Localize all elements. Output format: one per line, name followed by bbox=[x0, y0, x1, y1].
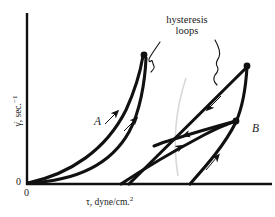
y-axis-label-text: γ̇, sec. bbox=[13, 103, 23, 126]
curve-loop-a-descending bbox=[28, 58, 146, 183]
origin-label-x-axis: 0 bbox=[24, 188, 29, 199]
figure-canvas bbox=[0, 0, 275, 217]
origin-label-y-axis: 0 bbox=[16, 177, 21, 188]
x-axis-label-text: τ, dyne/cm. bbox=[86, 197, 130, 207]
x-axis-label: τ, dyne/cm.2 bbox=[86, 196, 133, 208]
hysteresis-loops-figure: hysteresis loops A B 0 0 τ, dyne/cm.2 γ̇… bbox=[0, 0, 275, 217]
leader-line-right bbox=[214, 40, 220, 85]
y-axis-label: γ̇, sec.−1 bbox=[12, 76, 24, 146]
y-axis-label-exponent: −1 bbox=[11, 96, 19, 103]
label-curve-a: A bbox=[94, 115, 101, 127]
arrow-loop-b-lower-ascending bbox=[167, 147, 180, 155]
x-axis-label-exponent: 2 bbox=[130, 195, 134, 203]
curve-loop-a-ascending bbox=[28, 56, 143, 183]
arrow-loop-a-ascending bbox=[105, 113, 116, 124]
curve-loop-b-upper-descending bbox=[129, 67, 247, 184]
annotation-line-1: hysteresis bbox=[166, 14, 207, 25]
annotation-hysteresis-loops: hysteresis loops bbox=[156, 14, 218, 36]
leader-line-left bbox=[149, 42, 160, 72]
annotation-line-2: loops bbox=[156, 25, 218, 36]
label-curve-b: B bbox=[252, 122, 259, 134]
marker-apex-a bbox=[141, 52, 148, 59]
marker-apex-b bbox=[244, 63, 251, 70]
